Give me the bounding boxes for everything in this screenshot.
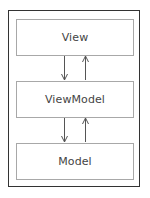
- model-layer-label: Model: [58, 155, 92, 168]
- view-layer-label: View: [62, 31, 89, 44]
- model-layer-box: Model: [16, 143, 134, 180]
- viewmodel-layer-label: ViewModel: [45, 93, 105, 106]
- viewmodel-layer-box: ViewModel: [16, 81, 134, 118]
- view-layer-box: View: [16, 19, 134, 56]
